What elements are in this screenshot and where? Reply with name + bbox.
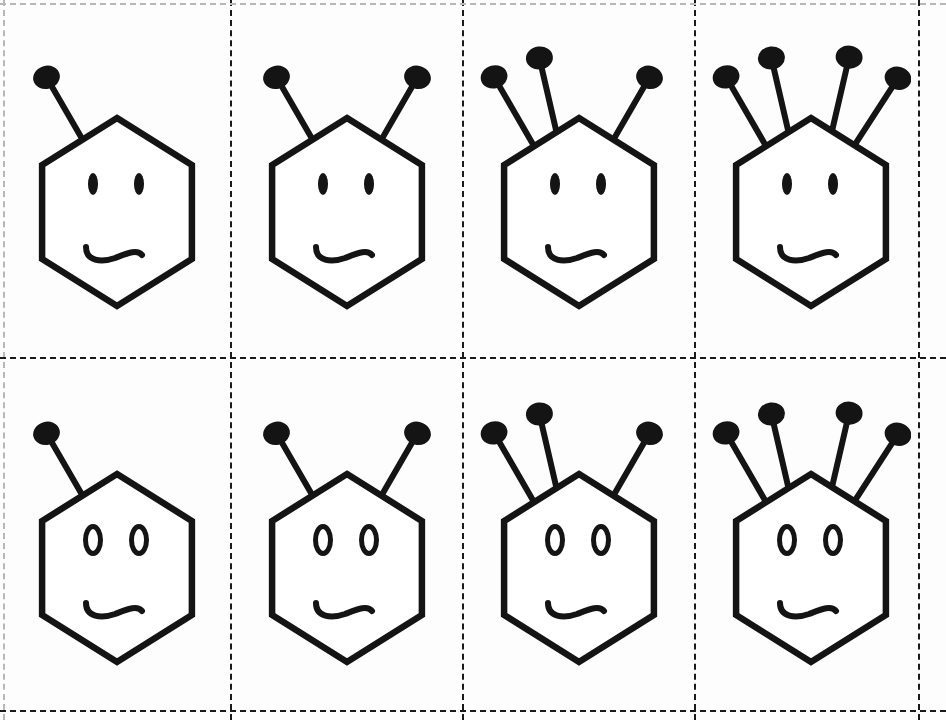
- right-eye: [132, 527, 147, 554]
- worksheet-sheet: [0, 0, 946, 720]
- grid-cell-2-3[interactable]: [466, 362, 692, 710]
- grid-cell-1-2[interactable]: [234, 6, 460, 354]
- right-eye: [594, 527, 609, 554]
- antenna-ball: [30, 419, 62, 448]
- antenna-stem: [726, 77, 766, 146]
- grid-cell-2-1[interactable]: [6, 362, 228, 710]
- left-eye: [88, 173, 98, 195]
- antenna-ball: [711, 62, 742, 91]
- hexagon-head: [272, 474, 422, 662]
- hexagon-head: [504, 118, 654, 306]
- left-eye: [548, 527, 563, 554]
- antenna-ball: [525, 45, 554, 71]
- right-eye: [826, 527, 841, 554]
- left-eye: [780, 527, 795, 554]
- antenna-ball: [633, 419, 665, 448]
- hexagon-head: [504, 474, 654, 662]
- alien-face-figure: [711, 386, 911, 686]
- antenna-stem: [854, 78, 898, 145]
- grid-vertical-divider-0: [3, 0, 5, 720]
- antenna-ball: [882, 419, 911, 449]
- alien-face-figure: [479, 30, 679, 330]
- grid-vertical-divider-2: [462, 0, 464, 720]
- antenna-group: [30, 63, 82, 140]
- right-eye: [362, 527, 377, 554]
- right-eye: [596, 173, 606, 195]
- antenna-ball: [479, 418, 510, 447]
- hexagon-head: [736, 118, 886, 306]
- hexagon-head: [736, 474, 886, 662]
- alien-face-figure: [479, 386, 679, 686]
- left-eye: [782, 173, 792, 195]
- alien-face-figure: [17, 30, 217, 330]
- right-eye: [134, 173, 144, 195]
- antenna-group: [30, 419, 82, 496]
- antenna-ball: [401, 419, 433, 448]
- hexagon-head: [42, 118, 192, 306]
- antenna-ball: [757, 401, 786, 427]
- grid-vertical-divider-1: [230, 0, 232, 720]
- right-eye: [828, 173, 838, 195]
- grid-cell-2-4[interactable]: [698, 362, 924, 710]
- antenna-ball: [834, 44, 863, 70]
- grid-cell-1-4[interactable]: [698, 6, 924, 354]
- antenna-stem: [494, 77, 534, 146]
- alien-face-figure: [247, 30, 447, 330]
- antenna-stem: [726, 433, 766, 502]
- left-eye: [86, 527, 101, 554]
- antenna-ball: [30, 63, 62, 92]
- antenna-ball: [260, 419, 292, 448]
- grid-vertical-divider-3: [694, 0, 696, 720]
- right-eye: [364, 173, 374, 195]
- hexagon-head: [272, 118, 422, 306]
- antenna-ball: [633, 63, 665, 92]
- alien-face-figure: [711, 30, 911, 330]
- alien-face-figure: [17, 386, 217, 686]
- antenna-ball: [834, 400, 863, 426]
- left-eye: [550, 173, 560, 195]
- antenna-ball: [711, 418, 742, 447]
- antenna-stem: [494, 433, 534, 502]
- antenna-stem: [854, 434, 898, 501]
- grid-cell-2-2[interactable]: [234, 362, 460, 710]
- antenna-ball: [525, 401, 554, 427]
- antenna-ball: [882, 63, 911, 93]
- grid-horizontal-divider-1: [0, 357, 946, 359]
- grid-horizontal-divider-0: [0, 3, 946, 5]
- hexagon-head: [42, 474, 192, 662]
- antenna-ball: [260, 63, 292, 92]
- alien-face-figure: [247, 386, 447, 686]
- antenna-ball: [479, 62, 510, 91]
- left-eye: [318, 173, 328, 195]
- antenna-ball: [757, 45, 786, 71]
- grid-cell-1-1[interactable]: [6, 6, 228, 354]
- grid-horizontal-divider-2: [0, 710, 946, 712]
- antenna-ball: [401, 63, 433, 92]
- grid-cell-1-3[interactable]: [466, 6, 692, 354]
- left-eye: [316, 527, 331, 554]
